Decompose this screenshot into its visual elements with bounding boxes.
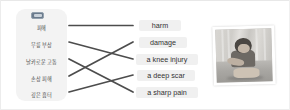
frame-border-bottom — [0, 109, 290, 110]
photo-child-legs — [233, 68, 259, 78]
korean-term-2[interactable]: 무릎 부상 — [16, 42, 67, 49]
connector-line-2 — [69, 42, 133, 59]
frame-border-left — [0, 0, 1, 110]
blue-tag-badge-icon — [31, 12, 44, 19]
connector-line-4 — [69, 42, 133, 76]
english-term-3[interactable]: a knee injury — [136, 54, 198, 65]
english-term-1[interactable]: harm — [139, 20, 181, 31]
english-term-4[interactable]: a deep scar — [137, 70, 195, 81]
matching-exercise-screenshot: 피해 무릎 부상 날카로운 고통 손상 피해 깊은 흉터 harm damage… — [0, 0, 290, 110]
korean-term-1[interactable]: 피해 — [16, 25, 67, 32]
english-term-2[interactable]: damage — [139, 37, 187, 48]
english-term-5[interactable]: a sharp pain — [136, 87, 198, 98]
frame-border-right — [289, 0, 290, 110]
photo-child-face — [238, 44, 249, 54]
korean-term-5[interactable]: 깊은 흉터 — [16, 92, 67, 99]
connector-line-5 — [69, 75, 133, 92]
korean-term-4[interactable]: 손상 피해 — [16, 76, 67, 83]
connector-line-3 — [69, 59, 133, 92]
child-photo-frame — [212, 25, 276, 86]
frame-border-top — [0, 0, 290, 1]
korean-term-3[interactable]: 날카로운 고통 — [16, 59, 67, 66]
child-photo — [215, 28, 272, 83]
korean-terms-panel: 피해 무릎 부상 날카로운 고통 손상 피해 깊은 흉터 — [16, 9, 67, 101]
